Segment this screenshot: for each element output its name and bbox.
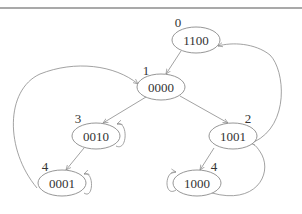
- edge-1000-to-1001: [212, 143, 265, 196]
- node-index-label: 1: [143, 63, 150, 78]
- node-index-label: 4: [42, 159, 49, 174]
- node-0000: 0000 1: [137, 63, 185, 100]
- node-index-label: 3: [75, 111, 82, 126]
- node-0001: 0001 4: [38, 159, 86, 196]
- edge-0010-to-0001: [66, 148, 84, 170]
- edge-0000-to-1001: [180, 96, 228, 123]
- edge-0000-to-0010: [103, 97, 146, 123]
- state-diagram: 1100 0 0000 1 0010 3 1001 2 0001 4 1000 …: [0, 0, 302, 214]
- node-index-label: 2: [245, 111, 252, 126]
- node-1100: 1100 0: [172, 15, 220, 53]
- node-state-text: 0000: [148, 80, 174, 95]
- edge-0001-to-0000: [13, 66, 138, 188]
- node-state-text: 0010: [83, 129, 109, 144]
- node-state-text: 0001: [49, 176, 75, 191]
- node-state-text: 1001: [220, 129, 246, 144]
- node-index-label: 4: [211, 159, 218, 174]
- node-state-text: 1100: [183, 33, 209, 48]
- edge-1100-to-0000: [166, 51, 181, 74]
- node-index-label: 0: [175, 15, 182, 30]
- node-state-text: 1000: [184, 176, 210, 191]
- node-1000: 1000 4: [173, 159, 221, 196]
